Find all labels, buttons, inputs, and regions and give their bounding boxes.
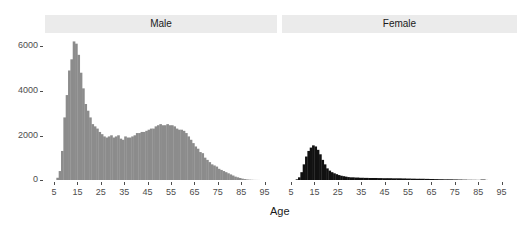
x-tick-label: 35 bbox=[114, 187, 134, 197]
x-tick bbox=[431, 182, 432, 185]
x-tick bbox=[314, 182, 315, 185]
x-tick bbox=[455, 182, 456, 185]
x-tick-label: 75 bbox=[208, 187, 228, 197]
x-tick bbox=[124, 182, 125, 185]
x-tick-label: 45 bbox=[138, 187, 158, 197]
y-tick-label: 4000 bbox=[2, 85, 38, 95]
x-tick bbox=[77, 182, 78, 185]
x-tick-label: 5 bbox=[281, 187, 301, 197]
x-tick bbox=[478, 182, 479, 185]
x-tick bbox=[265, 182, 266, 185]
y-tick bbox=[40, 46, 43, 47]
x-tick bbox=[54, 182, 55, 185]
x-tick-label: 95 bbox=[492, 187, 512, 197]
x-tick-label: 15 bbox=[304, 187, 324, 197]
x-tick bbox=[218, 182, 219, 185]
x-tick-label: 35 bbox=[351, 187, 371, 197]
x-tick bbox=[101, 182, 102, 185]
x-tick bbox=[502, 182, 503, 185]
x-tick-label: 25 bbox=[328, 187, 348, 197]
y-tick bbox=[40, 136, 43, 137]
plot-area-male bbox=[45, 35, 277, 195]
y-tick-label: 2000 bbox=[2, 130, 38, 140]
x-tick bbox=[361, 182, 362, 185]
x-tick bbox=[171, 182, 172, 185]
x-tick-label: 15 bbox=[67, 187, 87, 197]
x-tick-label: 85 bbox=[231, 187, 251, 197]
facet-strip-female: Female bbox=[282, 15, 517, 33]
facet-strip-male: Male bbox=[45, 15, 277, 33]
x-tick bbox=[241, 182, 242, 185]
x-tick-label: 25 bbox=[91, 187, 111, 197]
facet-panel-female: Female bbox=[282, 15, 517, 190]
x-tick-label: 65 bbox=[421, 187, 441, 197]
x-tick-label: 55 bbox=[398, 187, 418, 197]
x-tick bbox=[194, 182, 195, 185]
x-tick bbox=[291, 182, 292, 185]
histogram-female bbox=[282, 35, 517, 195]
x-tick bbox=[338, 182, 339, 185]
y-tick-label: 6000 bbox=[2, 40, 38, 50]
x-tick bbox=[385, 182, 386, 185]
x-tick-label: 5 bbox=[44, 187, 64, 197]
x-tick-label: 85 bbox=[468, 187, 488, 197]
x-tick-label: 55 bbox=[161, 187, 181, 197]
x-tick-label: 75 bbox=[445, 187, 465, 197]
y-tick-label: 0 bbox=[2, 174, 38, 184]
y-tick bbox=[40, 180, 43, 181]
x-tick-label: 95 bbox=[255, 187, 275, 197]
y-tick bbox=[40, 91, 43, 92]
plot-area-female bbox=[282, 35, 517, 195]
histogram-male bbox=[45, 35, 277, 195]
x-tick-label: 45 bbox=[375, 187, 395, 197]
x-tick-label: 65 bbox=[184, 187, 204, 197]
x-tick bbox=[148, 182, 149, 185]
x-tick bbox=[408, 182, 409, 185]
facet-panel-male: Male bbox=[45, 15, 277, 190]
x-axis-title: Age bbox=[270, 205, 290, 217]
